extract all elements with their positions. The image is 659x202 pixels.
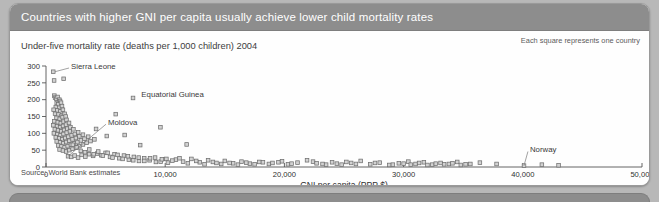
x-tick-label: 50,000: [630, 170, 650, 179]
panel-body: Under-five mortality rate (deaths per 1,…: [10, 31, 649, 186]
annotation-label: Norway: [530, 145, 557, 154]
screenshot-root: Countries with higher GNI per capita usu…: [0, 0, 659, 202]
y-tick-label: 150: [27, 112, 40, 121]
annotation-label: Moldova: [108, 118, 138, 127]
x-tick-label: 10,000: [154, 170, 177, 179]
source-note: Source: World Bank estimates: [21, 168, 120, 177]
x-tick-label: 30,000: [392, 170, 415, 179]
annotation-label: Sierra Leone: [71, 62, 116, 71]
y-tick-label: 250: [27, 79, 40, 88]
y-tick-label: 50: [32, 146, 40, 155]
x-axis-title: GNI per capita (PPP $): [300, 180, 388, 186]
panel-header: Countries with higher GNI per capita usu…: [10, 4, 649, 31]
y-tick-label: 200: [27, 95, 40, 104]
annotation-label: Equatorial Guinea: [141, 90, 204, 99]
y-tick-label: 300: [27, 62, 40, 71]
panel-title: Countries with higher GNI per capita usu…: [21, 11, 433, 23]
chart-panel: Countries with higher GNI per capita usu…: [9, 3, 650, 186]
next-panel-peek: [9, 193, 650, 202]
scatter-plot-svg: 050100150200250300010,00020,00030,00040,…: [10, 31, 650, 186]
y-tick-label: 100: [27, 129, 40, 138]
x-tick-label: 40,000: [511, 170, 534, 179]
scatter-plot: 050100150200250300010,00020,00030,00040,…: [10, 31, 650, 186]
x-tick-label: 20,000: [273, 170, 296, 179]
